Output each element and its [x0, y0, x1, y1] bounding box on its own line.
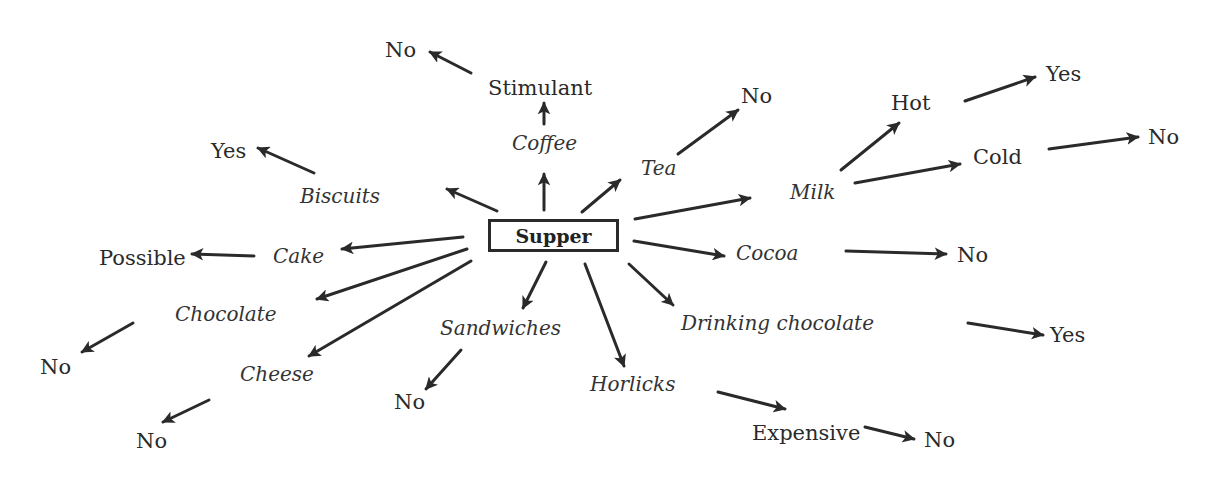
hot-yes-label: Yes	[1046, 64, 1081, 85]
cheese-no-label: No	[136, 431, 167, 452]
arrow-cocoa-no	[846, 251, 946, 254]
cocoa-no-label: No	[957, 245, 988, 266]
biscuits-yes-label: Yes	[211, 141, 246, 162]
arrow-expensive-no	[865, 427, 914, 439]
chocolate-no-label: No	[40, 357, 71, 378]
arrow-hot-yes	[965, 77, 1035, 101]
arrow-chocolate-no	[82, 323, 133, 352]
chocolate-label: Chocolate	[175, 304, 277, 324]
arrow-stimulant-no	[430, 52, 471, 73]
drinking-chocolate-yes-label: Yes	[1050, 325, 1085, 346]
supper-node: Supper	[488, 219, 619, 252]
stimulant-no-label: No	[385, 40, 416, 61]
sandwiches-label: Sandwiches	[440, 318, 561, 338]
cocoa-label: Cocoa	[736, 243, 799, 263]
arrow-supper-drinking-chocolate	[629, 264, 673, 305]
supper-label: Supper	[515, 225, 591, 247]
horlicks-label: Horlicks	[590, 374, 675, 394]
arrow-supper-horlicks	[585, 264, 624, 366]
arrow-drinking-chocolate-yes	[968, 323, 1043, 335]
expensive-label: Expensive	[752, 423, 860, 444]
biscuits-label: Biscuits	[300, 186, 380, 206]
cold-label: Cold	[973, 147, 1022, 168]
cold-no-label: No	[1148, 127, 1179, 148]
arrow-supper-cake	[342, 237, 463, 249]
tea-label: Tea	[641, 158, 677, 178]
arrow-supper-sandwiches	[523, 262, 546, 308]
arrow-cake-possible	[192, 254, 254, 256]
expensive-no-label: No	[924, 430, 955, 451]
arrow-milk-hot	[841, 123, 899, 170]
hot-label: Hot	[891, 93, 930, 114]
arrow-milk-cold	[855, 164, 960, 183]
stimulant-label: Stimulant	[488, 78, 592, 99]
arrow-cheese-no	[163, 400, 209, 422]
arrow-supper-tea	[582, 180, 620, 212]
tea-no-label: No	[741, 86, 772, 107]
sandwiches-no-label: No	[394, 392, 425, 413]
coffee-label: Coffee	[512, 133, 577, 153]
arrow-supper-cocoa	[634, 241, 724, 256]
drinking-chocolate-label: Drinking chocolate	[681, 313, 874, 333]
arrow-sandwiches-no	[426, 350, 461, 389]
arrow-tea-no	[678, 110, 738, 154]
arrow-supper-chocolate	[317, 249, 467, 299]
cake-label: Cake	[273, 246, 324, 266]
cheese-label: Cheese	[240, 364, 314, 384]
arrow-cold-no	[1049, 137, 1138, 149]
arrow-horlicks-expensive	[718, 392, 785, 409]
milk-label: Milk	[790, 182, 835, 202]
arrow-supper-biscuits	[447, 189, 497, 211]
arrow-supper-milk	[635, 198, 750, 219]
arrow-biscuits-yes	[258, 148, 314, 173]
cake-possible-label: Possible	[99, 248, 186, 269]
